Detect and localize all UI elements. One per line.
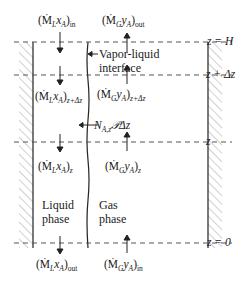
- liquid-z-dz-label: (ṀLxA)z+Δz: [35, 90, 82, 107]
- gas-phase-label: Gas phase: [99, 198, 126, 226]
- liquid-phase-label: Liquid phase: [42, 198, 74, 226]
- interface-line: [87, 42, 89, 248]
- level-label-bottom: z = 0: [207, 236, 231, 248]
- liquid-z-label: (ṀLxA)z: [38, 160, 73, 177]
- level-label-upper: z + Δz: [206, 68, 235, 80]
- gas-out-label: (ṀGyA)out: [102, 14, 145, 31]
- gas-z-dz-label: (ṀGyA)z+Δz: [97, 88, 145, 105]
- interface-label: Vapor-liquid interface: [99, 47, 159, 75]
- gas-in-label: (ṀGyA)in: [104, 258, 143, 275]
- liquid-out-label: (ṀLxA)out: [36, 258, 77, 275]
- level-label-top: z = H: [207, 35, 233, 47]
- gas-z-label: (ṀGyA)z: [105, 160, 141, 177]
- flux-label: NA,z𝒫Δz: [94, 119, 130, 136]
- liquid-in-label: (ṀLxA)in: [38, 14, 76, 31]
- level-label-lower: z: [206, 135, 210, 147]
- left-wall-hatch: [19, 42, 33, 248]
